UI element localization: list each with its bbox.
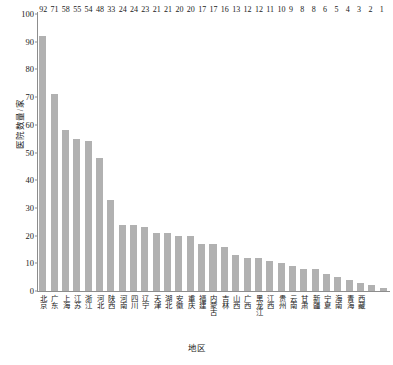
x-axis-category-label: 吉林 [220,294,228,308]
bar-value-label: 58 [62,6,70,14]
bar: 23 [141,227,148,291]
bar-slot: 23 [141,14,148,291]
y-axis-tick-mark [35,69,38,70]
bar-value-label: 55 [73,6,81,14]
x-axis-category-label: 贵州 [277,294,285,308]
bar-value-label: 23 [141,6,149,14]
bar-slot: 4 [346,14,353,291]
bar: 17 [198,244,205,291]
bar-slot: 9 [289,14,296,291]
bar-slot: 13 [232,14,239,291]
bar-slot: 12 [244,14,251,291]
bar-value-label: 20 [187,6,195,14]
y-axis-tick-label: 100 [21,9,34,19]
bar-slot: 58 [62,14,69,291]
bar-value-label: 92 [39,6,47,14]
bar-slot: 8 [312,14,319,291]
x-axis-category-label: 青海 [345,294,353,308]
bar-value-label: 24 [130,6,138,14]
y-axis-tick-mark [35,263,38,264]
bar: 55 [73,139,80,291]
bar-value-label: 33 [107,6,115,14]
y-axis-tick-mark [35,235,38,236]
bar: 92 [39,36,46,291]
x-axis-category-label: 西藏 [357,294,365,308]
bar: 21 [164,233,171,291]
bar-slot: 1 [380,14,387,291]
bar-value-label: 4 [346,6,350,14]
bar-value-label: 9 [289,6,293,14]
y-axis-tick-label: 60 [26,120,35,130]
x-axis-category-label: 内蒙古 [209,294,217,315]
bar-value-label: 8 [300,6,304,14]
bar-value-label: 24 [119,6,127,14]
bar-value-label: 10 [278,6,286,14]
x-axis-category-label: 河北 [96,294,104,308]
bar-slot: 5 [334,14,341,291]
x-axis-category-label: 浙江 [84,294,92,308]
x-axis-category-label: 广西 [243,294,251,308]
bar-slot: 48 [96,14,103,291]
bar: 8 [312,269,319,291]
bar-slot: 21 [164,14,171,291]
bar: 4 [346,280,353,291]
y-axis-tick-label: 80 [26,64,35,74]
bar-slot: 3 [357,14,364,291]
x-axis-category-label: 辽宁 [141,294,149,308]
bar-value-label: 8 [312,6,316,14]
bar-value-label: 6 [323,6,327,14]
x-axis-category-label: 云南 [289,294,297,308]
y-axis-tick-label: 10 [26,258,35,268]
y-axis-tick-mark [35,291,38,292]
bar: 13 [232,255,239,291]
bar-value-label: 17 [198,6,206,14]
bar-chart: 医院数量/家 010203040506070809010092715855544… [0,0,393,365]
y-axis-tick-label: 0 [30,286,34,296]
bar-slot: 92 [39,14,46,291]
bar: 20 [187,236,194,291]
y-axis-tick-mark [35,124,38,125]
bar: 12 [255,258,262,291]
bar: 33 [107,200,114,291]
bar-value-label: 20 [175,6,183,14]
y-axis-tick-label: 70 [26,92,35,102]
bar-slot: 17 [209,14,216,291]
bar-slot: 24 [130,14,137,291]
bar-value-label: 1 [380,6,384,14]
x-axis-category-label: 上海 [61,294,69,308]
bar: 1 [380,288,387,291]
bar: 58 [62,130,69,291]
bar-slot: 21 [153,14,160,291]
bar: 3 [357,283,364,291]
x-axis-category-label: 广东 [50,294,58,308]
x-axis-category-label: 黑龙江 [255,294,263,315]
bar-slot: 24 [119,14,126,291]
y-axis-tick-mark [35,207,38,208]
x-axis-category-label: 天津 [152,294,160,308]
bar: 6 [323,274,330,291]
bar: 24 [130,225,137,291]
bar-slot: 16 [221,14,228,291]
x-axis-category-label: 安徽 [175,294,183,308]
y-axis-tick-label: 90 [26,37,35,47]
bar: 24 [119,225,126,291]
bar-value-label: 48 [96,6,104,14]
y-axis-tick-mark [35,180,38,181]
bar-value-label: 17 [209,6,217,14]
y-axis-tick-mark [35,97,38,98]
bar: 48 [96,158,103,291]
bar-value-label: 11 [266,6,274,14]
y-axis-tick-mark [35,41,38,42]
x-axis-category-label: 湖北 [164,294,172,308]
bar: 10 [278,263,285,291]
bar-value-label: 13 [232,6,240,14]
x-axis-title: 地区 [0,341,393,353]
bar-slot: 2 [368,14,375,291]
bar: 16 [221,247,228,291]
y-axis-tick-label: 20 [26,231,35,241]
x-axis-category-label: 海南 [334,294,342,308]
bar-slot: 17 [198,14,205,291]
bar-value-label: 2 [368,6,372,14]
bar: 21 [153,233,160,291]
bar: 20 [175,236,182,291]
